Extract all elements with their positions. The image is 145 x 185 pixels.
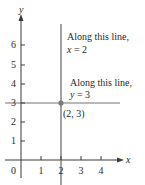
x-tick-label: 1 [39, 165, 44, 176]
x-tick-label: 4 [99, 165, 104, 176]
y-tick-label: 6 [11, 39, 16, 50]
y-axis-arrow-icon [19, 14, 24, 21]
point-2-3 [58, 100, 63, 105]
horizontal-line-annotation-equation: y = 3 [69, 89, 90, 100]
y-tick-label: 3 [11, 97, 16, 108]
x-tick-label: 2 [59, 165, 64, 176]
x-tick-label: 3 [79, 165, 84, 176]
y-tick-label: 1 [11, 135, 16, 146]
origin-label: 0 [11, 165, 16, 176]
coordinate-diagram: y x 1 2 3 4 5 6 0 1 2 3 4 Along this lin… [0, 0, 145, 185]
y-tick-label: 2 [11, 116, 16, 127]
y-ticks [21, 45, 25, 141]
x-axis-arrow-icon [117, 158, 124, 163]
y-tick-label: 5 [11, 59, 16, 70]
y-axis-label: y [18, 4, 24, 15]
x-axis-label: x [125, 154, 131, 165]
vertical-line-annotation-equation: x = 2 [66, 44, 87, 55]
point-label: (2, 3) [63, 108, 85, 120]
y-tick-label: 4 [11, 78, 16, 89]
horizontal-line-annotation-title: Along this line, [70, 77, 132, 88]
vertical-line-annotation-title: Along this line, [67, 31, 129, 42]
x-ticks [41, 156, 101, 160]
